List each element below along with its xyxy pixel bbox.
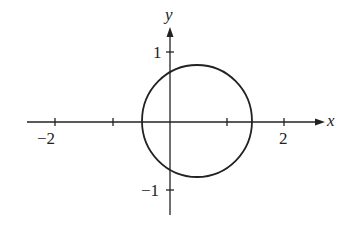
y-axis-arrow-icon <box>167 27 174 37</box>
y-axis-label: y <box>165 6 173 23</box>
x-axis-label: x <box>327 112 335 129</box>
x-tick-label-2: 2 <box>279 130 288 147</box>
x-axis-arrow-icon <box>315 119 325 126</box>
x-tick-label-neg2: −2 <box>37 130 55 147</box>
circle-curve <box>142 65 252 177</box>
y-tick-label-1: 1 <box>153 44 162 61</box>
y-tick-label-neg1: −1 <box>141 182 159 199</box>
plot-area <box>0 0 346 230</box>
